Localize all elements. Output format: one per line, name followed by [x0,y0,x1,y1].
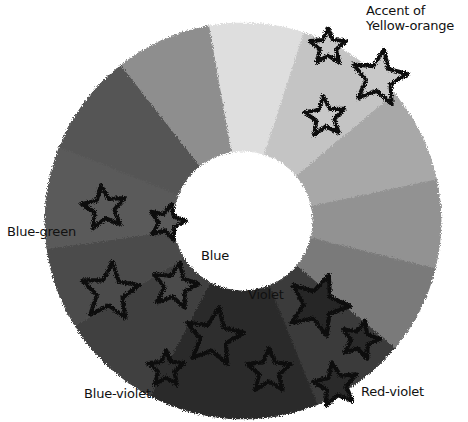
label-blue-violet: Blue-violet [84,386,151,401]
label-accent-yellow-orange: Accent of Yellow-orange [366,3,454,33]
label-blue: Blue [201,248,229,263]
color-wheel [0,0,468,422]
label-violet: Violet [248,287,284,302]
label-blue-green: Blue-green [7,224,76,239]
star-icon [353,49,407,104]
label-red-violet: Red-violet [361,384,424,399]
